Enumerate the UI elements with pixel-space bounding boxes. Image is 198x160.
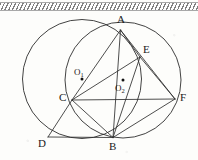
chord-EB: [113, 57, 140, 138]
chord-CD: [48, 100, 72, 137]
vertex-label-b: B: [109, 141, 116, 152]
circles-layer: [23, 20, 182, 139]
vertex-label-c: C: [59, 92, 66, 103]
chord-CF: [72, 99, 175, 100]
segments-layer: [48, 30, 175, 138]
chord-AC: [72, 30, 121, 100]
vertex-label-e: E: [143, 44, 150, 55]
geometry-figure: O1O2AEFCBD: [0, 0, 198, 160]
vertex-label-d: D: [38, 138, 46, 149]
vertex-label-a: A: [117, 14, 125, 25]
vertex-label-f: F: [180, 92, 186, 103]
center-dot-o2: [122, 79, 125, 82]
center-label-o1: O1: [74, 68, 84, 77]
chord-BF: [113, 99, 175, 138]
center-label-o2: O2: [115, 84, 125, 93]
chord-DB: [48, 137, 113, 138]
chord-CB: [72, 100, 113, 138]
chord-EF: [140, 57, 175, 99]
figure-canvas: [0, 0, 198, 160]
